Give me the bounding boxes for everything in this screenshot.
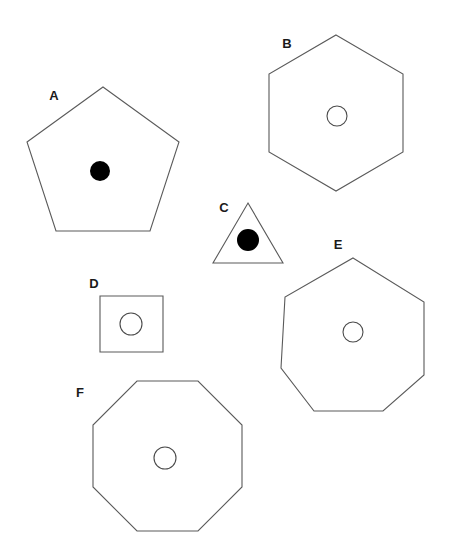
hollow-circle-marker-icon [120,313,142,335]
shape-group-f[interactable]: F [76,381,242,531]
shape-label-d: D [89,276,98,291]
shape-label-b: B [282,36,291,51]
shape-group-c[interactable]: C [213,200,283,263]
shapes-layer: ABCDEF [27,35,424,531]
shape-label-c: C [219,200,229,215]
filled-circle-marker-icon [237,229,259,251]
hollow-circle-marker-icon [343,322,363,342]
shape-group-a[interactable]: A [27,87,179,231]
shape-label-e: E [334,237,343,252]
shapes-figure-svg: ABCDEF [0,0,455,545]
shape-group-b[interactable]: B [269,35,403,191]
shape-label-a: A [49,88,59,103]
hollow-circle-marker-icon [327,106,347,126]
hollow-circle-marker-icon [154,447,176,469]
shapes-figure-canvas: ABCDEF [0,0,455,545]
shape-group-d[interactable]: D [89,276,163,352]
filled-circle-marker-icon [90,161,110,181]
shape-label-f: F [76,385,84,400]
shape-group-e[interactable]: E [281,237,424,411]
shape-pentagon-a[interactable] [27,87,179,231]
